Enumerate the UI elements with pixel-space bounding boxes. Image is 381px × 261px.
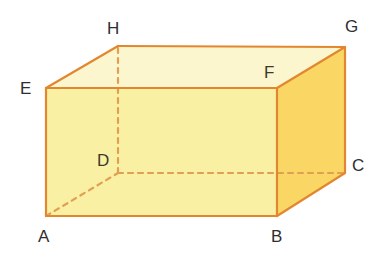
vertex-label-c: C <box>352 157 364 174</box>
vertex-label-b: B <box>271 228 283 245</box>
face-front-abfe <box>46 88 277 216</box>
vertex-label-g: G <box>345 18 358 35</box>
vertex-label-e: E <box>20 80 32 97</box>
edge-gh <box>118 46 345 47</box>
cuboid-drawing <box>0 0 381 261</box>
vertex-label-h: H <box>107 20 119 37</box>
vertex-label-d: D <box>97 152 109 169</box>
cuboid-figure: A B C D E F G H <box>0 0 381 261</box>
vertex-label-f: F <box>264 64 275 81</box>
faces-group <box>46 46 345 216</box>
vertex-label-a: A <box>38 228 50 245</box>
